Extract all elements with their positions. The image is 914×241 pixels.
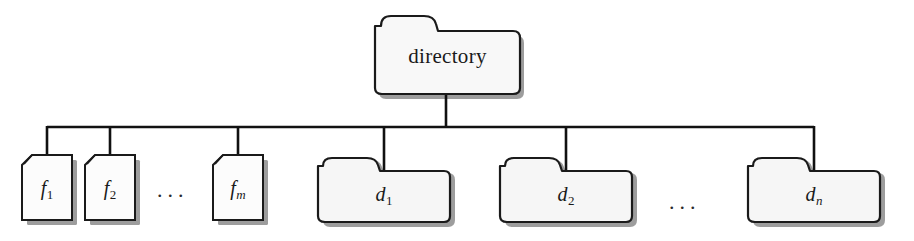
folder-shape-root [375,16,520,94]
folders-ellipsis: ... [669,191,701,213]
diagram-canvas [0,0,914,241]
directory-tree-diagram: directory f1 f2 fm d1 d2 dn ... ... [0,0,914,241]
file-shape-fm [213,155,263,220]
node-root-directory[interactable] [375,16,520,94]
file-shape-f2 [85,155,135,220]
file-shape-f1 [22,155,72,220]
node-file-fm[interactable] [213,155,263,220]
files-ellipsis: ... [157,179,189,201]
node-file-f1[interactable] [22,155,72,220]
connector-layer [47,93,814,170]
node-file-f2[interactable] [85,155,135,220]
